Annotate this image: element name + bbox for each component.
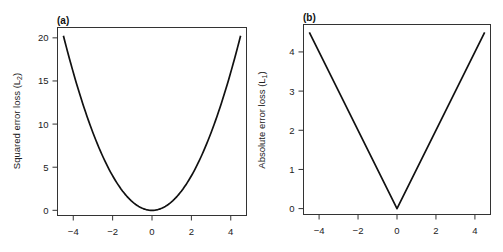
panel-a-y-tick-label: 15 — [38, 75, 49, 86]
panel-a-y-tick-label: 10 — [38, 119, 49, 130]
panel-b-x-tick-label: 2 — [433, 225, 438, 236]
panel-a-y-tick-label: 0 — [43, 205, 48, 216]
panel-b-y-ticks: 01234 — [289, 46, 303, 214]
panel-a-y-tick-label: 20 — [38, 32, 49, 43]
panel-b-label: (b) — [303, 12, 316, 23]
panel-b-y-tick-label: 1 — [289, 164, 294, 175]
panel-b-x-tick-label: 0 — [394, 225, 399, 236]
loss-function-figure: (a) Squared error loss (L2) 05101520 −4−… — [0, 0, 503, 252]
panel-a-x-tick-label: 0 — [149, 226, 154, 237]
panel-b-plot-frame — [304, 25, 491, 215]
panel-a-label: (a) — [57, 15, 69, 26]
panel-a-x-tick-label: −2 — [107, 226, 118, 237]
panel-a-x-tick-label: 2 — [189, 226, 194, 237]
panel-b-x-tick-label: −2 — [353, 225, 364, 236]
panel-b-x-tick-label: 4 — [472, 225, 477, 236]
panel-a-x-tick-label: 4 — [228, 226, 233, 237]
panel-b-x-tick-label: −4 — [314, 225, 325, 236]
panel-a-x-tick-label: −4 — [68, 226, 79, 237]
panel-b-y-tick-label: 4 — [289, 46, 294, 57]
panel-a-y-tick-label: 5 — [43, 162, 48, 173]
panel-b-y-tick-label: 2 — [289, 125, 294, 136]
panel-a-y-axis-title: Squared error loss (L2) — [11, 73, 23, 169]
panel-b-y-axis-title: Absolute error loss (L1) — [256, 71, 268, 168]
panel-b-loss-curve — [309, 32, 484, 208]
panel-b-y-tick-label: 3 — [289, 86, 294, 97]
panel-a-y-ticks: 05101520 — [38, 32, 58, 215]
panel-a-squared-error: (a) Squared error loss (L2) 05101520 −4−… — [11, 15, 247, 237]
panel-a-x-ticks: −4−2024 — [68, 216, 234, 237]
panel-a-loss-curve — [63, 36, 240, 211]
panel-b-x-ticks: −4−2024 — [314, 215, 478, 236]
panel-b-absolute-error: (b) Absolute error loss (L1) 01234 −4−20… — [256, 12, 491, 236]
panel-b-y-tick-label: 0 — [289, 203, 294, 214]
panel-a-plot-frame — [58, 28, 247, 216]
